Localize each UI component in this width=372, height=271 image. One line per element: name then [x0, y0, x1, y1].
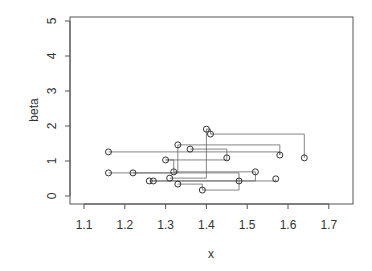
y-tick-label: 3 — [45, 87, 59, 94]
x-tick-label: 1.5 — [239, 218, 256, 232]
plot-frame — [70, 17, 353, 204]
step-lines — [108, 129, 304, 190]
y-tick-label: 2 — [45, 122, 59, 129]
y-tick-label: 1 — [45, 157, 59, 164]
x-tick-label: 1.4 — [198, 218, 215, 232]
x-axis-title: x — [208, 247, 214, 261]
x-tick-label: 1.6 — [280, 218, 297, 232]
y-tick-label: 4 — [45, 52, 59, 59]
x-tick-label: 1.1 — [76, 218, 93, 232]
y-tick-label: 5 — [45, 17, 59, 24]
x-tick-label: 1.2 — [116, 218, 133, 232]
x-tick-label: 1.7 — [320, 218, 337, 232]
chart-plot: 1.11.21.31.41.51.61.7 012345 x beta — [0, 0, 372, 271]
x-tick-label: 1.3 — [157, 218, 174, 232]
y-tick-label: 0 — [45, 192, 59, 199]
y-axis: 012345 — [45, 17, 70, 199]
x-axis: 1.11.21.31.41.51.61.7 — [76, 204, 338, 232]
y-axis-title: beta — [27, 98, 41, 122]
